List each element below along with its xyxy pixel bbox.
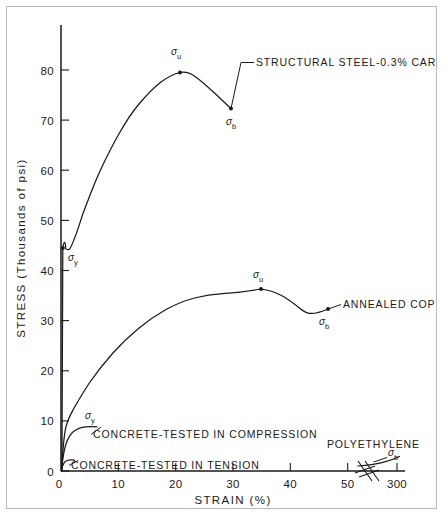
- sigma-subscript-y: y: [91, 416, 95, 425]
- leader-steel-label: [231, 63, 254, 109]
- annotation-copper-sigma-u: σ u: [253, 269, 263, 284]
- y-tick-label-60: 60: [41, 165, 54, 177]
- series-label-polyethylene: POLYETHYLENE: [327, 438, 420, 450]
- x-tick-label-40: 40: [284, 478, 297, 490]
- y-tick-label-80: 80: [41, 65, 54, 77]
- x-tick-label-10: 10: [112, 478, 125, 490]
- annotation-steel-sigma-b: σ b: [226, 116, 236, 131]
- y-axis-title: STRESS (Thousands of psi): [15, 158, 27, 337]
- series-label-concrete-tension: CONCRETE-TESTED IN TENSION: [71, 459, 260, 471]
- series-label-annealed-copper: ANNEALED COPPER: [343, 298, 436, 310]
- x-tick-label-30: 30: [226, 478, 239, 490]
- x-tick-label-300: 300: [387, 478, 407, 490]
- annotation-copper-sigma-b: σ b: [319, 316, 329, 331]
- y-tick-label-50: 50: [41, 215, 54, 227]
- sigma-subscript-u: u: [177, 52, 181, 61]
- axes-group: [61, 25, 405, 471]
- sigma-subscript-b: b: [325, 322, 329, 331]
- y-tick-label-10: 10: [41, 415, 54, 427]
- y-tick-label-40: 40: [41, 265, 54, 277]
- annotation-steel-sigma-y: σ y: [68, 252, 78, 267]
- marker-steel-sigma-u: [178, 71, 182, 75]
- sigma-subscript-u: u: [259, 275, 263, 284]
- x-axis-title: STRAIN (%): [194, 494, 271, 506]
- x-tick-labels-group: 0 10 20 30 40 50 300: [56, 478, 407, 490]
- annotation-steel-sigma-u: σ u: [171, 46, 181, 61]
- series-label-structural-steel: STRUCTURAL STEEL-0.3% CARBON: [256, 56, 436, 68]
- y-tick-label-30: 30: [41, 315, 54, 327]
- leader-copper-label: [328, 305, 341, 310]
- y-tick-label-0: 0: [47, 466, 54, 478]
- curve-annealed-copper: [62, 289, 328, 471]
- data-point-markers: [61, 71, 330, 312]
- figure-frame: 0 10 20 30 40 50 60 70 80 0 10 20 30 40 …: [6, 6, 437, 509]
- marker-steel-sigma-y: [61, 246, 65, 250]
- series-label-concrete-compression: CONCRETE-TESTED IN COMPRESSION: [93, 428, 317, 440]
- marker-copper-sigma-u: [259, 287, 263, 291]
- y-tick-label-70: 70: [41, 115, 54, 127]
- sigma-subscript-b: b: [394, 453, 398, 462]
- sigma-subscript-y: y: [74, 258, 78, 267]
- annotation-copper-sigma-y: σ y: [85, 410, 95, 425]
- x-tick-label-0: 0: [56, 478, 63, 490]
- sigma-subscript-b: b: [232, 122, 236, 131]
- x-tick-label-50: 50: [341, 478, 354, 490]
- stress-strain-chart: 0 10 20 30 40 50 60 70 80 0 10 20 30 40 …: [7, 7, 436, 508]
- y-tick-labels-group: 0 10 20 30 40 50 60 70 80: [41, 65, 54, 478]
- y-tick-label-20: 20: [41, 365, 54, 377]
- x-tick-label-20: 20: [169, 478, 182, 490]
